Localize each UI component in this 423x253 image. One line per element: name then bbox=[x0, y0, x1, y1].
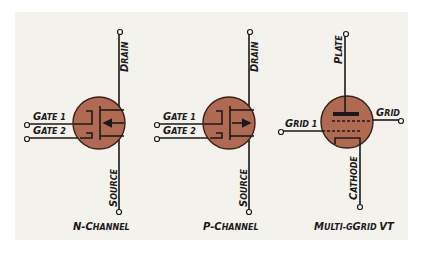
gate2-terminal bbox=[25, 137, 30, 142]
drain-terminal bbox=[248, 30, 253, 35]
source-terminal bbox=[117, 210, 122, 215]
gate1-label: GATE 1 bbox=[33, 111, 66, 122]
gate2-terminal bbox=[155, 137, 160, 142]
drain-label: DRAIN bbox=[119, 41, 130, 72]
grid1-terminal bbox=[279, 130, 284, 135]
grid-terminal bbox=[399, 119, 404, 124]
gate1-label: GATE 1 bbox=[163, 111, 196, 122]
n-channel-mosfet: GATE 1 GATE 2 DRAIN SOURCE N-CHANNEL bbox=[25, 30, 131, 233]
transistor-diagram: GATE 1 GATE 2 DRAIN SOURCE N-CHANNEL GAT… bbox=[0, 0, 423, 253]
gate1-terminal bbox=[155, 123, 160, 128]
p-channel-mosfet: GATE 1 GATE 2 DRAIN SOURCE P-CHANNEL bbox=[155, 30, 261, 233]
grid-label: GRID bbox=[376, 107, 400, 118]
grid1-label: GRID 1 bbox=[285, 118, 317, 129]
plate-terminal bbox=[344, 32, 349, 37]
cathode-terminal bbox=[358, 205, 363, 210]
source-label: SOURCE bbox=[238, 168, 249, 207]
gate1-terminal bbox=[25, 123, 30, 128]
tube-envelope bbox=[321, 96, 373, 148]
drain-label: DRAIN bbox=[249, 41, 260, 72]
gate2-label: GATE 2 bbox=[163, 125, 196, 136]
gate2-label: GATE 2 bbox=[33, 125, 66, 136]
plate-electrode bbox=[333, 112, 359, 116]
n-channel-caption: N-CHANNEL bbox=[73, 221, 130, 232]
source-label: SOURCE bbox=[108, 168, 119, 207]
drain-terminal bbox=[118, 30, 123, 35]
multi-grid-vacuum-tube: PLATE GRID 1 GRID CATHODE MULTI-GGRID VT bbox=[279, 32, 404, 233]
multi-grid-caption: MULTI-GGRID VT bbox=[314, 221, 395, 232]
source-terminal bbox=[247, 210, 252, 215]
p-channel-caption: P-CHANNEL bbox=[203, 221, 259, 232]
cathode-label: CATHODE bbox=[348, 156, 359, 200]
plate-label: PLATE bbox=[333, 35, 344, 64]
